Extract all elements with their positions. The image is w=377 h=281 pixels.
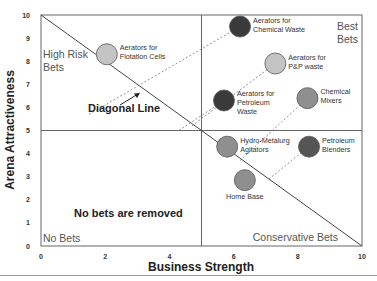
bubble-chart: Aerators forFlotation CellsAerators forC…	[0, 0, 377, 281]
bubble	[234, 170, 255, 191]
bubble	[230, 16, 251, 37]
bubble-label: Chemical Waste	[253, 25, 305, 34]
x-tick-label: 0	[39, 253, 43, 260]
bubble	[297, 88, 318, 109]
diagonal-line-label: Diagonal Line	[88, 102, 160, 114]
bubble-label: Petroleum	[237, 98, 270, 107]
x-axis-title: Business Strength	[148, 260, 254, 274]
bubble	[213, 90, 234, 111]
y-tick-label: 3	[26, 173, 30, 180]
y-axis-title: Arena Attractiveness	[3, 70, 17, 190]
bubble	[265, 53, 286, 74]
bubble-label: Waste	[237, 107, 257, 116]
x-tick-label: 6	[232, 253, 236, 260]
quadrant-bottom-left-label: No Bets	[43, 232, 80, 244]
y-axis-ticks: 012345678910	[22, 12, 30, 250]
bubble	[299, 136, 320, 157]
y-tick-label: 8	[26, 58, 30, 65]
bubble-label: Home Base	[226, 192, 264, 201]
y-tick-label: 1	[26, 219, 30, 226]
quadrant-top-right-label: Best	[337, 20, 358, 32]
y-tick-label: 6	[26, 104, 30, 111]
x-tick-label: 8	[296, 253, 300, 260]
y-tick-label: 9	[26, 35, 30, 42]
bubble-label: Blenders	[322, 145, 351, 154]
bubble	[217, 136, 238, 157]
bubble	[96, 44, 117, 65]
y-tick-label: 2	[26, 196, 30, 203]
quadrant-bottom-right-label: Conservative Bets	[253, 231, 338, 243]
bubble-label: Chemical	[320, 87, 350, 96]
bubble-label: Agitators	[240, 145, 269, 154]
bubble-label: Aerators for	[120, 43, 158, 52]
bubble-label: Hydro-Metalurg	[240, 136, 290, 145]
bubble-label: P&P waste	[288, 62, 323, 71]
y-tick-label: 4	[26, 150, 30, 157]
y-tick-label: 7	[26, 81, 30, 88]
bubble-label: Petroleum	[322, 136, 355, 145]
annotation-no-bets-removed: No bets are removed	[74, 207, 183, 219]
quadrant-top-left-label: High Risk	[43, 48, 89, 60]
quadrant-top-left-label-2: Bets	[43, 61, 64, 73]
x-tick-label: 4	[167, 253, 171, 260]
x-tick-label: 2	[103, 253, 107, 260]
bubble-label: Aerators for	[237, 89, 275, 98]
x-tick-label: 10	[358, 253, 366, 260]
bubble-label: Aerators for	[288, 53, 326, 62]
y-tick-label: 10	[22, 12, 30, 19]
bubble-label: Mixers	[320, 96, 342, 105]
bubble-label: Flotation Cells	[120, 52, 166, 61]
quadrant-top-right-label-2: Bets	[337, 33, 358, 45]
x-axis-ticks: 0246810	[39, 253, 366, 260]
bubble-label: Aerators for	[253, 16, 291, 25]
y-tick-label: 0	[26, 243, 30, 250]
y-tick-label: 5	[26, 127, 30, 134]
